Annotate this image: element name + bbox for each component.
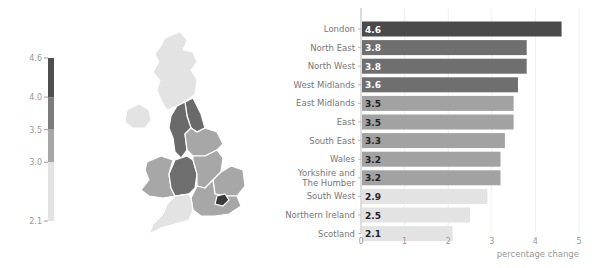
map-region-south-west[interactable] [149, 194, 193, 234]
bar[interactable] [362, 77, 518, 92]
bar[interactable] [362, 133, 505, 148]
bar-value-label: 3.8 [365, 62, 381, 72]
category-label: Scotland [318, 229, 355, 239]
bar-value-label: 3.8 [365, 43, 381, 53]
x-tick-label: 0 [358, 237, 363, 246]
legend-tick-label: 4.0 [29, 93, 42, 102]
legend-tick-label: 2.1 [29, 217, 42, 226]
x-tick-label: 2 [446, 237, 451, 246]
legend-tick-label: 3.5 [29, 126, 42, 135]
bar[interactable] [362, 152, 501, 167]
bar-value-label: 3.2 [365, 173, 381, 183]
bar-value-label: 2.5 [365, 211, 381, 221]
bar-chart: 4.6London3.8North East3.8North West3.6We… [280, 0, 607, 268]
legend-tick-label: 3.0 [29, 158, 42, 167]
color-legend: 4.64.03.53.02.1 [0, 0, 80, 268]
bar-value-label: 3.5 [365, 118, 381, 128]
bar-value-label: 3.6 [365, 80, 381, 90]
legend-bin [48, 97, 54, 130]
bar-value-label: 2.1 [365, 229, 381, 239]
category-label: Yorkshire andThe Humber [297, 168, 356, 188]
category-label: London [324, 24, 355, 34]
bar[interactable] [362, 59, 527, 74]
bar[interactable] [362, 96, 514, 111]
bar-value-label: 2.9 [365, 192, 381, 202]
bar[interactable] [362, 115, 514, 130]
legend-bin [48, 130, 54, 163]
category-label: South West [307, 191, 356, 201]
bar-value-label: 3.5 [365, 99, 381, 109]
legend-tick-label: 4.6 [29, 54, 42, 63]
x-axis-title: percentage change [497, 249, 579, 259]
legend-bin [48, 58, 54, 97]
bar-value-label: 3.3 [365, 136, 381, 146]
category-label: Northern Ireland [285, 210, 355, 220]
map-region-west-midlands[interactable] [169, 156, 197, 196]
map-region-northern-ireland[interactable] [125, 104, 151, 128]
category-label: North East [310, 43, 355, 53]
x-tick-label: 1 [402, 237, 407, 246]
category-label: South East [309, 136, 355, 146]
x-tick-label: 4 [533, 237, 538, 246]
bar-value-label: 3.2 [365, 155, 381, 165]
legend-bin [48, 162, 54, 221]
bar[interactable] [362, 40, 527, 55]
bar[interactable] [362, 170, 501, 185]
bar[interactable] [362, 22, 562, 37]
bar-value-label: 4.6 [365, 25, 381, 35]
category-label: West Midlands [294, 80, 356, 90]
category-label: Wales [330, 154, 356, 164]
uk-region-map [100, 10, 280, 250]
category-label: East Midlands [296, 98, 355, 108]
x-tick-label: 5 [576, 237, 581, 246]
map-region-scotland[interactable] [153, 32, 197, 110]
category-label: North West [308, 61, 356, 71]
x-tick-label: 3 [489, 237, 494, 246]
category-label: East [337, 117, 356, 127]
